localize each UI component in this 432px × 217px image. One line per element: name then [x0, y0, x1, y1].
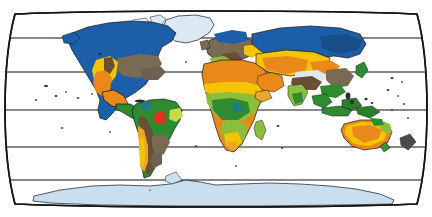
site-marker-northern-south-america[interactable]	[141, 101, 151, 111]
british-isles	[200, 40, 210, 50]
site-marker-amazon[interactable]	[154, 112, 166, 124]
world-biome-map-figure	[0, 0, 432, 217]
world-map-svg	[0, 0, 432, 217]
